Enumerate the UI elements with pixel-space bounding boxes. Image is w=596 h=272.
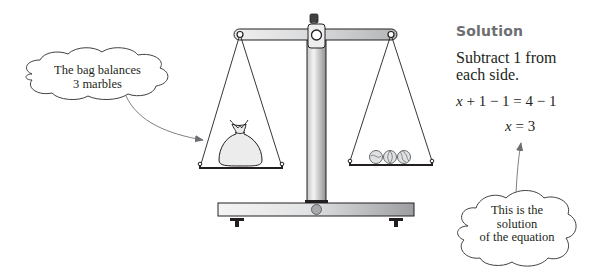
left-callout-line1: The bag balances: [40, 63, 155, 77]
equation-variable: x: [456, 93, 463, 109]
equation-expression: = 3: [512, 118, 535, 134]
right-callout-arrow: [516, 143, 521, 193]
equation-result: x = 3: [505, 118, 535, 135]
right-foot: [389, 218, 403, 227]
right-callout-line3: of the equation: [462, 231, 572, 245]
marble-icon: [370, 151, 383, 164]
solution-heading: Solution: [456, 23, 523, 39]
scale-top-knob: [310, 14, 318, 23]
solution-instruction-line1: Subtract 1 from: [456, 49, 556, 66]
right-callout-line1: This is the: [462, 204, 572, 218]
solution-instruction: Subtract 1 from each side.: [456, 49, 556, 83]
left-foot: [230, 218, 244, 227]
right-pivot-icon: [388, 32, 394, 38]
center-pivot-icon: [312, 30, 322, 40]
left-pivot-icon: [237, 32, 243, 38]
equation-expression: + 1 − 1 = 4 − 1: [463, 93, 557, 109]
equation-step1: x + 1 − 1 = 4 − 1: [456, 93, 557, 110]
equation-variable: x: [505, 118, 512, 134]
left-callout-text: The bag balances 3 marbles: [40, 63, 155, 91]
solution-instruction-line2: each side.: [456, 66, 556, 83]
right-callout-line2: solution: [462, 218, 572, 232]
balance-scale: [198, 14, 434, 227]
bag-icon: [219, 120, 262, 166]
left-callout-line2: 3 marbles: [40, 77, 155, 91]
marble-icon: [384, 151, 397, 164]
scale-pillar: [307, 38, 326, 203]
base-knob-icon: [312, 205, 322, 215]
right-callout-text: This is the solution of the equation: [462, 204, 572, 245]
left-callout-arrow: [126, 96, 203, 140]
marble-icon: [398, 151, 411, 164]
